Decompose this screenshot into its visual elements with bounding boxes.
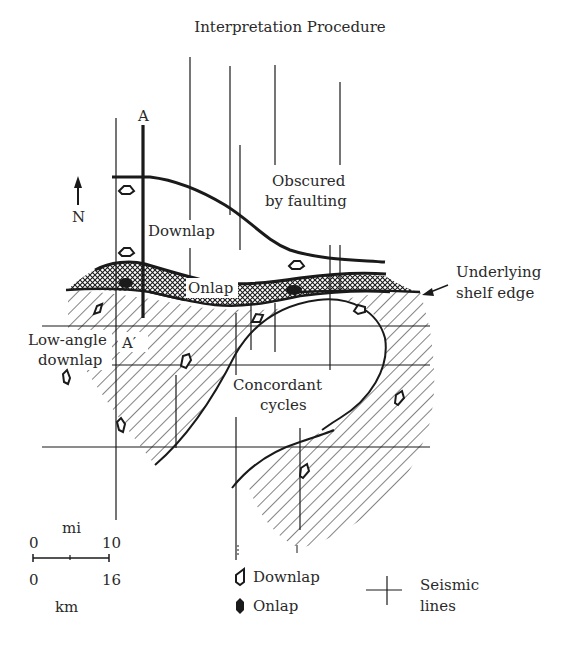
label-obscured-2: by faulting bbox=[265, 192, 347, 210]
north-arrow-icon bbox=[74, 176, 82, 205]
legend-onlap-label: Onlap bbox=[253, 597, 298, 615]
figure-title: Interpretation Procedure bbox=[194, 18, 386, 36]
scale-unit-km: km bbox=[55, 598, 78, 616]
label-shelf-1: Underlying bbox=[456, 263, 542, 281]
onlap-symbol-icon bbox=[286, 285, 302, 295]
shelf-edge-pointer-icon bbox=[422, 285, 448, 296]
label-onlap: Onlap bbox=[188, 279, 233, 297]
downlap-symbol-icon bbox=[236, 569, 244, 585]
section-label-a-prime: A′ bbox=[121, 334, 137, 352]
legend-seismic-label-1: Seismic bbox=[420, 576, 479, 594]
label-concordant-1: Concordant bbox=[233, 376, 322, 394]
label-concordant-2: cycles bbox=[260, 396, 307, 414]
legend: Downlap Onlap Seismic lines bbox=[236, 545, 479, 615]
scale-bottom-start: 0 bbox=[29, 571, 39, 589]
legend-seismic-label-2: lines bbox=[420, 597, 456, 615]
scale-top-start: 0 bbox=[29, 534, 39, 552]
label-shelf-2: shelf edge bbox=[456, 284, 534, 302]
section-label-a: A bbox=[137, 107, 149, 125]
seismic-line-symbol-icon bbox=[366, 576, 402, 605]
scale-bottom-end: 16 bbox=[102, 571, 121, 589]
onlap-symbol-icon bbox=[119, 278, 133, 288]
label-low-angle-2: downlap bbox=[38, 351, 102, 369]
scale-top-end: 10 bbox=[102, 534, 121, 552]
north-label: N bbox=[72, 208, 85, 226]
label-obscured-1: Obscured bbox=[272, 172, 346, 190]
label-low-angle-1: Low-angle bbox=[28, 331, 107, 349]
downlap-symbol-icon bbox=[289, 261, 304, 269]
downlap-symbol-icon bbox=[119, 248, 134, 256]
downlap-symbol-icon bbox=[63, 370, 70, 384]
downlap-symbol-icon bbox=[119, 186, 134, 194]
label-downlap: Downlap bbox=[148, 222, 215, 240]
legend-downlap-label: Downlap bbox=[253, 568, 320, 586]
onlap-symbol-icon bbox=[236, 598, 244, 614]
scale-unit-mi: mi bbox=[62, 519, 81, 537]
seismic-interpretation-map: Interpretation Procedure bbox=[0, 0, 572, 645]
